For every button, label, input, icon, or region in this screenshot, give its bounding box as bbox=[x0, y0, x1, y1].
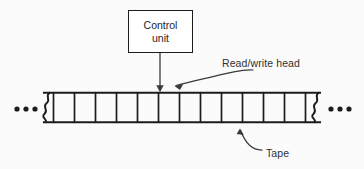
read-write-head-label: Read/write head bbox=[222, 57, 300, 69]
control-unit-to-head-arrow bbox=[156, 53, 163, 92]
tape-label: Tape bbox=[266, 147, 289, 159]
ellipsis-right-icon bbox=[328, 106, 351, 111]
diagram-linework bbox=[0, 0, 364, 169]
tape-cells bbox=[54, 93, 306, 122]
tape-body bbox=[43, 93, 320, 122]
tape-callout-arrow bbox=[237, 129, 262, 151]
tape-torn-edge-left bbox=[43, 93, 49, 122]
figure-canvas: Control unit bbox=[0, 0, 364, 169]
read-write-head-callout-arrow bbox=[175, 70, 254, 90]
ellipsis-left-icon bbox=[14, 106, 37, 111]
tape-torn-edge-right bbox=[312, 93, 318, 122]
